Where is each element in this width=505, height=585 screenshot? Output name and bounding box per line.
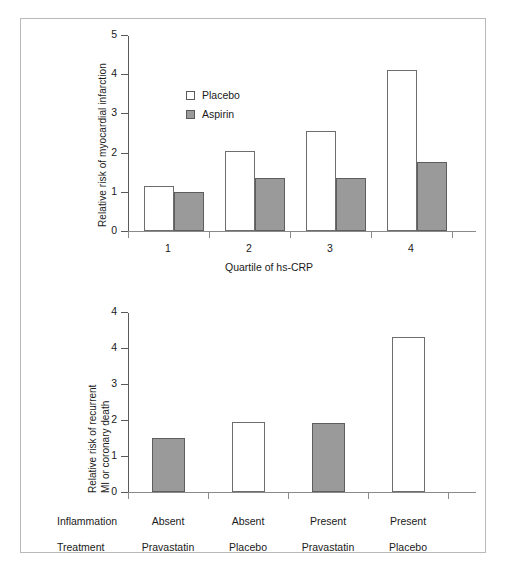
x-label-top-q4: 4	[408, 242, 414, 254]
bar-bottom-1	[152, 438, 185, 492]
y-tick-top-5: 5	[121, 35, 128, 36]
category-row-inflammation: Inflammation Absent Absent Present Prese…	[21, 511, 487, 537]
chart-panel-top: Relative risk of myocardial infarction 0…	[21, 21, 487, 289]
y-tick-bottom-4: 4	[121, 348, 128, 349]
bar-bottom-3	[312, 423, 345, 492]
cell-treatment-4: Placebo	[389, 541, 427, 553]
bar-top-aspirin-q4	[417, 162, 447, 231]
x-tick-bottom-3	[368, 493, 369, 499]
plot-area-top: 0 1 2 3 4 5 1 2 3	[128, 36, 476, 232]
y-tick-bottom-2: 2	[121, 420, 128, 421]
y-tick-bottom-0: 0	[121, 492, 128, 493]
x-label-top-q1: 1	[165, 242, 171, 254]
y-tick-top-1: 1	[121, 192, 128, 193]
y-axis-title-bottom-line1: Relative risk of recurrent	[87, 385, 98, 493]
y-axis-title-bottom-line2: MI or coronary death	[100, 401, 111, 493]
legend-swatch-placebo-icon	[186, 91, 195, 100]
bar-top-aspirin-q2	[255, 178, 285, 231]
y-axis-line-top	[128, 36, 129, 232]
x-tick-top-2	[290, 232, 291, 238]
cell-inflammation-3: Present	[310, 515, 346, 527]
bar-top-placebo-q3	[306, 131, 336, 231]
legend-label-placebo: Placebo	[202, 89, 240, 101]
x-axis-line-bottom	[128, 492, 476, 493]
row-header-treatment: Treatment	[57, 541, 104, 553]
cell-treatment-1: Pravastatin	[142, 541, 195, 553]
y-axis-line-bottom	[128, 313, 129, 493]
cell-inflammation-4: Present	[390, 515, 426, 527]
chart-panel-bottom: Relative risk of recurrent MI or coronar…	[21, 293, 487, 553]
y-tick-top-0: 0	[121, 231, 128, 232]
y-tick-top-2: 2	[121, 153, 128, 154]
legend-item-aspirin: Aspirin	[186, 108, 240, 120]
figure-frame: Relative risk of myocardial infarction 0…	[20, 18, 486, 553]
cell-inflammation-2: Absent	[232, 515, 265, 527]
cell-treatment-3: Pravastatin	[302, 541, 355, 553]
bar-bottom-2	[232, 422, 265, 492]
x-tick-top-1	[209, 232, 210, 238]
bar-top-placebo-q4	[387, 70, 417, 231]
x-tick-top-4	[452, 232, 453, 238]
cell-treatment-2: Placebo	[229, 541, 267, 553]
legend-top: Placebo Aspirin	[186, 89, 240, 127]
legend-item-placebo: Placebo	[186, 89, 240, 101]
cell-inflammation-1: Absent	[152, 515, 185, 527]
x-tick-bottom-0	[128, 493, 129, 499]
legend-swatch-aspirin-icon	[186, 110, 195, 119]
category-table-bottom: Inflammation Absent Absent Present Prese…	[21, 511, 487, 563]
y-tick-top-3: 3	[121, 113, 128, 114]
x-label-top-q2: 2	[246, 242, 252, 254]
bar-bottom-4	[392, 337, 425, 492]
x-tick-top-3	[371, 232, 372, 238]
x-tick-top-start	[128, 232, 129, 238]
x-tick-bottom-4	[448, 493, 449, 499]
y-tick-bottom-5: 4	[121, 312, 128, 313]
bar-top-placebo-q1	[144, 186, 174, 231]
y-tick-bottom-1: 1	[121, 456, 128, 457]
bar-top-aspirin-q3	[336, 178, 366, 231]
category-row-treatment: Treatment Pravastatin Placebo Pravastati…	[21, 537, 487, 563]
x-tick-bottom-1	[208, 493, 209, 499]
legend-label-aspirin: Aspirin	[202, 108, 234, 120]
bar-top-aspirin-q1	[174, 192, 204, 231]
y-tick-top-4: 4	[121, 74, 128, 75]
x-label-top-q3: 3	[327, 242, 333, 254]
row-header-inflammation: Inflammation	[57, 515, 117, 527]
x-tick-bottom-2	[288, 493, 289, 499]
y-axis-title-top: Relative risk of myocardial infarction	[97, 63, 108, 227]
x-axis-line-top	[128, 231, 476, 232]
y-tick-bottom-3: 3	[121, 384, 128, 385]
bar-top-placebo-q2	[225, 151, 255, 231]
plot-area-bottom: 0 1 2 3 4 4	[128, 313, 476, 493]
x-axis-title-top: Quartile of hs-CRP	[225, 261, 313, 273]
